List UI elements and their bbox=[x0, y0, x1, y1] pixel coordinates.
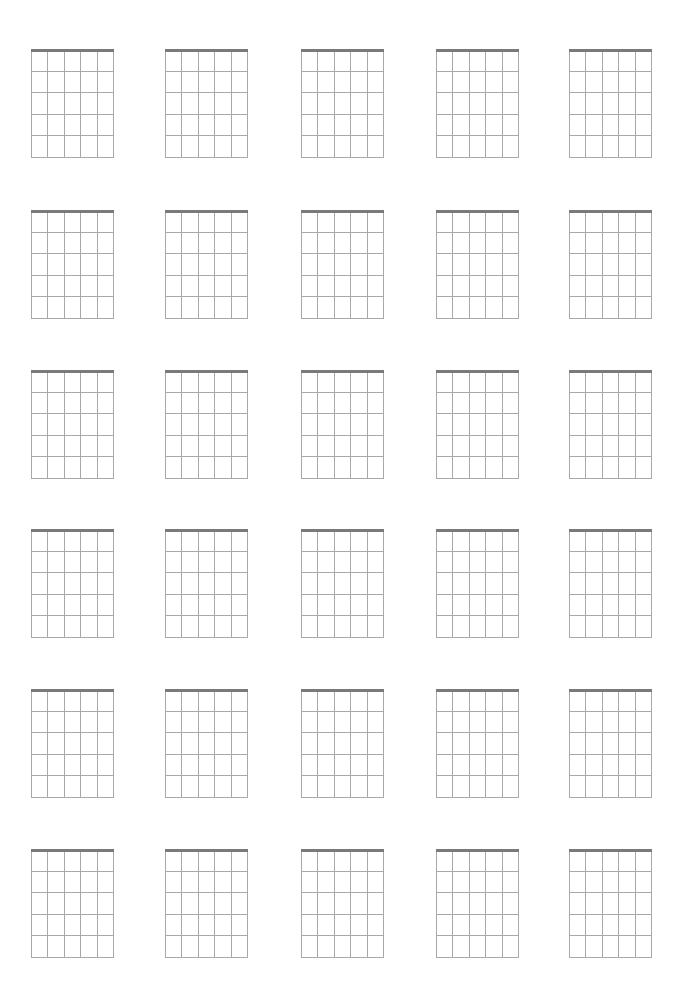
string-line bbox=[231, 370, 232, 478]
string-line bbox=[469, 849, 470, 957]
string-line bbox=[247, 210, 248, 318]
string-line bbox=[214, 49, 215, 157]
string-line bbox=[436, 370, 437, 478]
string-line bbox=[181, 210, 182, 318]
string-line bbox=[350, 529, 351, 637]
fret-line bbox=[569, 413, 652, 414]
string-line bbox=[181, 370, 182, 478]
fret-line bbox=[301, 637, 384, 638]
fret-line bbox=[165, 92, 248, 93]
string-line bbox=[651, 689, 652, 797]
string-line bbox=[635, 689, 636, 797]
fret-line bbox=[165, 572, 248, 573]
fret-line bbox=[165, 296, 248, 297]
string-line bbox=[317, 849, 318, 957]
chord-diagram bbox=[569, 849, 651, 957]
string-line bbox=[635, 529, 636, 637]
string-line bbox=[585, 210, 586, 318]
fret-line bbox=[31, 754, 114, 755]
nut-bar bbox=[436, 529, 519, 532]
string-line bbox=[113, 849, 114, 957]
string-line bbox=[518, 689, 519, 797]
string-line bbox=[585, 849, 586, 957]
string-line bbox=[436, 689, 437, 797]
fret-line bbox=[165, 551, 248, 552]
string-line bbox=[585, 689, 586, 797]
fret-line bbox=[31, 232, 114, 233]
string-line bbox=[367, 210, 368, 318]
string-line bbox=[165, 370, 166, 478]
nut-bar bbox=[569, 370, 652, 373]
fret-line bbox=[165, 935, 248, 936]
nut-bar bbox=[301, 370, 384, 373]
string-line bbox=[367, 689, 368, 797]
fret-line bbox=[31, 92, 114, 93]
fret-line bbox=[301, 296, 384, 297]
string-line bbox=[64, 210, 65, 318]
fret-line bbox=[301, 157, 384, 158]
string-line bbox=[165, 49, 166, 157]
fret-line bbox=[569, 435, 652, 436]
string-line bbox=[452, 210, 453, 318]
fret-line bbox=[436, 551, 519, 552]
string-line bbox=[301, 529, 302, 637]
fret-line bbox=[31, 892, 114, 893]
fret-line bbox=[165, 754, 248, 755]
string-line bbox=[602, 210, 603, 318]
fret-line bbox=[301, 253, 384, 254]
string-line bbox=[113, 370, 114, 478]
chord-diagram bbox=[31, 529, 113, 637]
string-line bbox=[231, 49, 232, 157]
string-line bbox=[247, 849, 248, 957]
chord-diagram bbox=[165, 210, 247, 318]
nut-bar bbox=[301, 529, 384, 532]
fret-line bbox=[569, 637, 652, 638]
string-line bbox=[485, 849, 486, 957]
string-line bbox=[569, 529, 570, 637]
string-line bbox=[47, 529, 48, 637]
fret-line bbox=[436, 435, 519, 436]
fret-line bbox=[436, 478, 519, 479]
fret-line bbox=[569, 935, 652, 936]
fret-line bbox=[301, 435, 384, 436]
chord-diagram bbox=[301, 210, 383, 318]
fret-line bbox=[165, 456, 248, 457]
fret-line bbox=[31, 135, 114, 136]
string-line bbox=[181, 529, 182, 637]
string-line bbox=[651, 210, 652, 318]
nut-bar bbox=[301, 849, 384, 852]
chord-diagram bbox=[165, 689, 247, 797]
fret-line bbox=[31, 797, 114, 798]
fret-line bbox=[31, 478, 114, 479]
fret-line bbox=[31, 615, 114, 616]
nut-bar bbox=[165, 370, 248, 373]
chord-diagram bbox=[569, 49, 651, 157]
fret-line bbox=[165, 615, 248, 616]
nut-bar bbox=[569, 529, 652, 532]
fret-line bbox=[31, 435, 114, 436]
string-line bbox=[569, 210, 570, 318]
fret-line bbox=[301, 275, 384, 276]
string-line bbox=[651, 849, 652, 957]
string-line bbox=[247, 529, 248, 637]
string-line bbox=[97, 529, 98, 637]
string-line bbox=[247, 49, 248, 157]
string-line bbox=[165, 689, 166, 797]
chord-diagram bbox=[569, 210, 651, 318]
string-line bbox=[469, 370, 470, 478]
fret-line bbox=[31, 935, 114, 936]
string-line bbox=[518, 210, 519, 318]
string-line bbox=[635, 210, 636, 318]
fret-line bbox=[165, 957, 248, 958]
fret-line bbox=[436, 413, 519, 414]
string-line bbox=[97, 370, 98, 478]
fret-line bbox=[569, 615, 652, 616]
fret-line bbox=[436, 615, 519, 616]
nut-bar bbox=[301, 210, 384, 213]
fret-line bbox=[436, 754, 519, 755]
nut-bar bbox=[31, 49, 114, 52]
fret-line bbox=[436, 797, 519, 798]
fret-line bbox=[31, 296, 114, 297]
fret-line bbox=[436, 232, 519, 233]
string-line bbox=[618, 849, 619, 957]
